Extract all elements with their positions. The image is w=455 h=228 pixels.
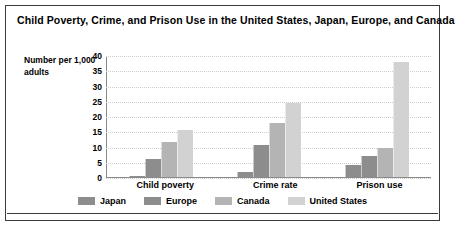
legend-label: United States	[310, 196, 368, 206]
bar	[393, 62, 409, 177]
y-tick-label: 15	[80, 127, 102, 137]
legend-swatch-icon	[144, 197, 161, 205]
legend-divider	[7, 213, 438, 214]
bar	[145, 159, 161, 177]
y-tick-label: 25	[80, 97, 102, 107]
y-tick-label: 30	[80, 82, 102, 92]
x-category-label: Prison use	[356, 180, 402, 190]
legend-item[interactable]: Japan	[78, 196, 126, 206]
y-tick-label: 20	[80, 112, 102, 122]
bar-group	[237, 56, 301, 177]
plot-area: 4035302520151050	[106, 56, 431, 178]
bar	[129, 176, 145, 177]
chart-figure: Child Poverty, Crime, and Prison Use in …	[5, 5, 440, 221]
legend-swatch-icon	[215, 197, 232, 205]
bar-groups	[107, 56, 431, 177]
legend-item[interactable]: Europe	[144, 196, 197, 206]
legend-item[interactable]: Canada	[215, 196, 270, 206]
legend-item[interactable]: United States	[288, 196, 368, 206]
x-axis-category-labels: Child povertyCrime ratePrison use	[107, 180, 432, 190]
legend-label: Europe	[166, 196, 197, 206]
y-tick-label: 0	[80, 173, 102, 183]
bar	[345, 165, 361, 177]
bar	[285, 103, 301, 177]
legend-label: Canada	[237, 196, 270, 206]
y-tick-label: 35	[80, 66, 102, 76]
y-tick-label: 40	[80, 51, 102, 61]
y-tick-label: 10	[80, 143, 102, 153]
bar	[253, 145, 269, 177]
chart-legend: JapanEuropeCanadaUnited States	[6, 196, 439, 206]
gridline	[106, 178, 431, 179]
chart-title: Child Poverty, Crime, and Prison Use in …	[17, 14, 455, 26]
x-category-label: Child poverty	[136, 180, 194, 190]
bar	[361, 156, 377, 177]
bar-group	[345, 56, 409, 177]
bar	[269, 123, 285, 177]
y-tick-label: 5	[80, 158, 102, 168]
bar	[177, 130, 193, 177]
bar	[377, 148, 393, 177]
bar	[161, 142, 177, 177]
bar-group	[129, 56, 193, 177]
bar	[237, 172, 253, 177]
legend-swatch-icon	[288, 197, 305, 205]
legend-label: Japan	[100, 196, 126, 206]
legend-swatch-icon	[78, 197, 95, 205]
x-category-label: Crime rate	[253, 180, 298, 190]
